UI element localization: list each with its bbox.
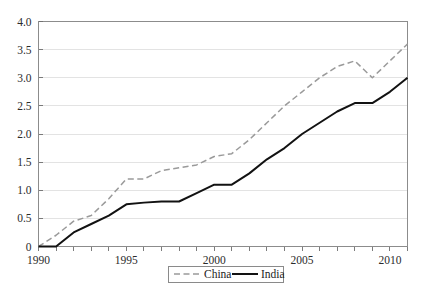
y-axis-tick-label: 3.5 [17,44,32,56]
y-axis-tick-label: 4.0 [17,16,32,28]
x-axis-tick-label: 1990 [27,254,50,266]
x-axis-tick-label: 1995 [115,254,138,266]
line-chart: 00.51.01.52.02.53.03.54.0 19901995200020… [0,0,426,292]
y-axis-tick-label: 1.5 [17,156,32,168]
y-axis-tick-label: 2.0 [17,128,32,140]
x-axis-tick-label: 2005 [291,254,314,266]
y-axis-tick-label: 2.5 [17,100,32,112]
chart-background [0,0,426,292]
y-axis-labels-group: 00.51.01.52.02.53.03.54.0 [17,16,32,253]
x-axis-tick-label: 2000 [203,254,226,266]
legend-label-india: India [261,268,285,280]
y-axis-tick-label: 0 [26,241,32,253]
chart-legend: ChinaIndia [168,266,285,282]
legend-label-china: China [204,268,231,280]
y-axis-tick-label: 1.0 [17,184,32,196]
y-axis-tick-label: 3.0 [17,72,32,84]
y-axis-tick-label: 0.5 [17,212,32,224]
chart-container: 00.51.01.52.02.53.03.54.0 19901995200020… [0,0,426,292]
x-axis-tick-label: 2010 [378,254,401,266]
